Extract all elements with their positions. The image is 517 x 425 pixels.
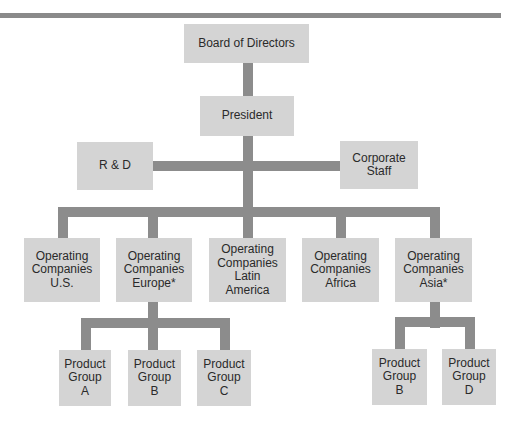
node-operating-us: Operating Companies U.S. (24, 238, 100, 302)
connector-drop-eu-pg-c (220, 318, 230, 350)
node-label: Operating Companies Asia* (403, 250, 464, 291)
connector-drop-asia (430, 207, 440, 238)
node-label: Product Group B (379, 357, 420, 398)
top-rule (0, 13, 501, 18)
node-operating-europe: Operating Companies Europe* (116, 238, 192, 302)
node-president: President (200, 96, 294, 136)
connector-president-trunk (243, 136, 253, 217)
node-label: Product Group A (64, 358, 105, 399)
node-operating-africa: Operating Companies Africa (302, 238, 379, 302)
node-label: Product Group B (134, 358, 175, 399)
connector-staff-bar (153, 161, 340, 171)
node-label: President (222, 109, 273, 123)
node-corporate-staff: Corporate Staff (340, 141, 418, 189)
node-asia-product-group-d: Product Group D (442, 349, 496, 405)
connector-asia-pg-bar (395, 317, 475, 327)
connector-drop-us (58, 207, 68, 238)
node-operating-asia: Operating Companies Asia* (395, 238, 472, 302)
connector-drop-asia-pg-b (395, 317, 405, 349)
node-label: Operating Companies Africa (310, 250, 371, 291)
node-asia-product-group-b: Product Group B (372, 349, 427, 405)
connector-drop-europe (148, 207, 158, 238)
node-label: Product Group D (448, 357, 489, 398)
connector-drop-africa (336, 207, 346, 238)
node-label: Operating Companies Latin America (217, 243, 278, 297)
node-board-of-directors: Board of Directors (184, 24, 309, 63)
connector-drop-eu-pg-a (81, 318, 91, 350)
connector-drop-latin (243, 207, 253, 238)
node-label: Board of Directors (198, 37, 295, 51)
node-europe-product-group-b: Product Group B (128, 350, 181, 406)
node-rnd: R & D (77, 142, 153, 190)
node-label: Operating Companies Europe* (124, 250, 185, 291)
connector-drop-asia-pg-d (465, 317, 475, 349)
node-label: Operating Companies U.S. (32, 250, 93, 291)
node-label: Product Group C (203, 358, 244, 399)
connector-board-president (243, 63, 253, 96)
node-operating-latin-america: Operating Companies Latin America (209, 238, 286, 302)
node-europe-product-group-c: Product Group C (197, 350, 251, 406)
node-label: R & D (99, 159, 131, 173)
connector-drop-eu-pg-b (148, 318, 158, 350)
node-label: Corporate Staff (352, 152, 405, 179)
node-europe-product-group-a: Product Group A (59, 350, 111, 406)
